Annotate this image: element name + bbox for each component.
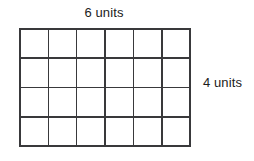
figure-canvas: 6 units 4 units (0, 0, 254, 161)
grid-svg (19, 28, 191, 147)
unit-square-grid (19, 28, 191, 147)
right-dimension-label: 4 units (203, 76, 242, 90)
top-dimension-label: 6 units (0, 6, 208, 20)
